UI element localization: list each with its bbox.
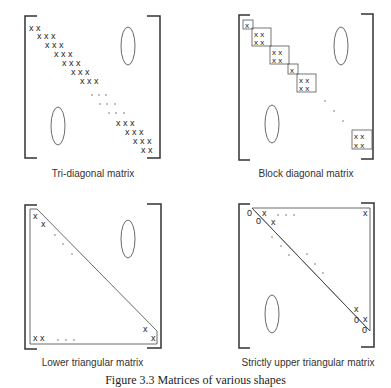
left-bracket — [25, 16, 37, 158]
svg-text:x x: x x — [254, 38, 264, 47]
svg-text:x x: x x — [33, 333, 45, 343]
svg-text:0: 0 — [362, 325, 367, 335]
svg-text:x: x — [143, 324, 148, 334]
block-diagonal-matrix: x x xx x x xx x x x xx x x xx x — [239, 14, 373, 160]
panel-label-strictly-upper-triangular: Strictly upper triangular matrix — [233, 357, 383, 368]
svg-text:x x: x x — [354, 132, 364, 141]
panel-label-block-diagonal: Block diagonal matrix — [250, 168, 362, 179]
svg-text:0: 0 — [354, 315, 359, 325]
svg-text:x: x — [354, 304, 359, 314]
svg-text:x: x — [271, 217, 276, 227]
zero-region-upper — [121, 27, 135, 65]
ellipsis-dots — [91, 94, 124, 113]
svg-text:x: x — [290, 66, 294, 75]
svg-text:x x x: x x x — [80, 76, 99, 86]
svg-text:x: x — [33, 211, 38, 221]
svg-text:x: x — [245, 21, 249, 30]
svg-text:x: x — [151, 333, 156, 343]
svg-text:0: 0 — [256, 216, 261, 226]
strictly-upper-triangular-matrix: 0 x 0 x x x 0 x 0 — [239, 203, 374, 348]
tri-diagonal-entries: x x x x x x x x x x x x x x x x x x x x … — [29, 23, 153, 155]
tri-diagonal-matrix: x x x x x x x x x x x x x x x x x x x x … — [25, 16, 160, 158]
svg-text:0: 0 — [247, 208, 252, 218]
lower-triangle-outline — [30, 209, 157, 344]
figure-caption: Figure 3.3 Matrices of various shapes — [0, 373, 391, 388]
svg-text:x x: x x — [272, 56, 282, 65]
zero-region-lower — [51, 107, 65, 145]
svg-text:x x: x x — [354, 141, 364, 150]
lower-triangular-matrix: x x x x x x — [25, 204, 161, 349]
panel-label-tri-diagonal: Tri-diagonal matrix — [38, 168, 148, 179]
svg-text:x x: x x — [141, 145, 153, 155]
svg-text:x: x — [363, 208, 368, 218]
svg-text:x: x — [262, 208, 267, 218]
svg-text:x: x — [41, 219, 46, 229]
svg-text:x x: x x — [299, 84, 309, 93]
svg-text:x: x — [363, 314, 368, 324]
panel-label-lower-triangular: Lower triangular matrix — [35, 357, 150, 368]
